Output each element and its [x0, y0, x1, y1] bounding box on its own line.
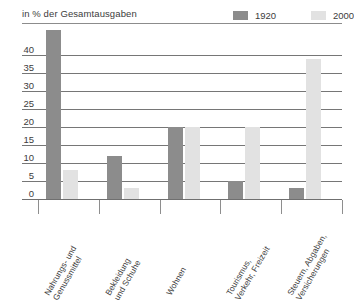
category-separator: [99, 200, 100, 214]
y-tick-rule: [22, 181, 38, 182]
legend-label-2000: 2000: [333, 10, 354, 21]
chart-subtitle: in % der Gesamtausgaben: [22, 8, 137, 19]
category-separator: [281, 200, 282, 214]
y-tick-rule: [22, 91, 38, 92]
y-tick-label: 10: [4, 152, 34, 163]
category-label-3: Wohnen: [164, 265, 188, 297]
y-tick-label: 40: [4, 44, 34, 55]
header-divider: [22, 23, 342, 24]
category-separator: [160, 200, 161, 214]
bar-1920-3: [168, 127, 183, 199]
bar-1920-2: [107, 156, 122, 199]
bar-1920-1: [46, 30, 61, 199]
y-tick-label: 0: [4, 188, 34, 199]
category-separator: [38, 200, 39, 214]
y-tick-label: 5: [4, 170, 34, 181]
category-label-line: Wohnen: [164, 265, 188, 297]
bar-2000-1: [63, 170, 78, 199]
category-label-1: Nahrungs- undGenussmittel: [42, 244, 87, 300]
y-tick-label: 30: [4, 80, 34, 91]
category-label-4: Tourismus,Verkehr, Freizeit: [224, 240, 272, 300]
bar-1920-5: [289, 188, 304, 199]
legend-swatch-2000: [311, 11, 326, 20]
category-label-5: Steuern, Abgaben,Versicherungen: [285, 232, 337, 300]
gridline: [38, 55, 342, 56]
category-separator: [220, 200, 221, 214]
chart-header: in % der Gesamtausgaben 1920 2000: [22, 8, 342, 24]
category-label-2: Bekleidungund Schuhe: [103, 253, 143, 300]
y-tick-label: 20: [4, 116, 34, 127]
x-axis-baseline: [22, 199, 342, 200]
gridline: [38, 73, 342, 74]
y-tick-rule: [22, 73, 38, 74]
y-tick-rule: [22, 127, 38, 128]
legend-item-1920: 1920: [233, 9, 276, 21]
category-separator: [342, 200, 343, 214]
legend-swatch-1920: [233, 11, 248, 20]
y-tick-label: 25: [4, 98, 34, 109]
y-tick-label: 15: [4, 134, 34, 145]
legend-item-2000: 2000: [311, 9, 354, 21]
bar-2000-5: [306, 59, 321, 199]
legend-label-1920: 1920: [255, 10, 276, 21]
gridline: [38, 91, 342, 92]
bar-2000-3: [185, 127, 200, 199]
y-tick-rule: [22, 55, 38, 56]
y-tick-rule: [22, 109, 38, 110]
y-tick-rule: [22, 145, 38, 146]
bar-2000-2: [124, 188, 139, 199]
gridline: [38, 109, 342, 110]
bar-1920-4: [228, 181, 243, 199]
y-tick-label: 35: [4, 62, 34, 73]
y-tick-rule: [22, 163, 38, 164]
bar-2000-4: [245, 127, 260, 199]
